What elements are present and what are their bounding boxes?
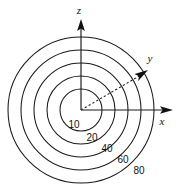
z-axis-label: z (76, 4, 82, 16)
diagram-canvas: z y x 10 20 40 60 80 (0, 0, 176, 195)
z-axis (77, 19, 85, 110)
x-axis (81, 106, 173, 114)
polar-contour-diagram: z y x 10 20 40 60 80 (0, 0, 176, 195)
x-axis-label: x (159, 115, 165, 127)
contour-label-80: 80 (133, 165, 145, 176)
contour-label-60: 60 (117, 154, 129, 165)
contour-label-20: 20 (86, 132, 98, 143)
y-axis-arrowhead (135, 70, 149, 81)
contour-label-40: 40 (101, 143, 113, 154)
contour-label-10: 10 (68, 119, 80, 130)
y-axis-label: y (147, 52, 153, 64)
y-axis-dashed-ray (81, 75, 141, 110)
